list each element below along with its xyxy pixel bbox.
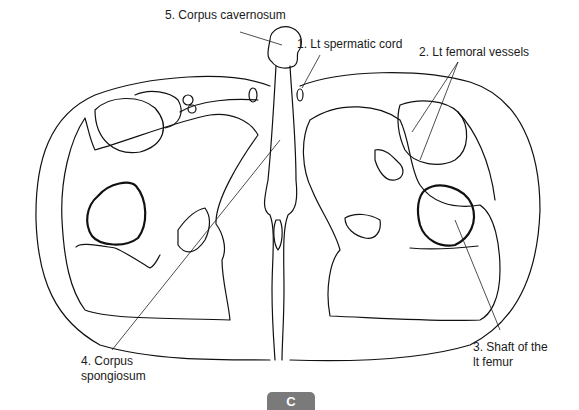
- left-thigh-outline: [36, 76, 270, 360]
- label-corpus-cavernosum: 5. Corpus cavernosum: [165, 8, 286, 23]
- right-small-bone-fragment: [345, 214, 380, 238]
- label-lt-femoral-vessels: 2. Lt femoral vessels: [419, 45, 529, 60]
- left-medial-line: [180, 99, 258, 112]
- panel-label-badge: C: [267, 392, 315, 410]
- leader-corpus-spongiosum: [112, 140, 280, 350]
- left-muscle-lobe: [95, 98, 163, 152]
- label-corpus-spongiosum-2: spongiosum: [81, 369, 146, 384]
- left-femur: [87, 183, 145, 245]
- lt-spermatic-cord-shape: [297, 89, 303, 101]
- leader-lt-spermatic-cord: [302, 55, 320, 88]
- anatomy-figure: 5. Corpus cavernosum 1. Lt spermatic cor…: [0, 0, 579, 410]
- midline-shaft: [265, 66, 297, 360]
- label-shaft-lt-femur-2: lt femur: [473, 355, 513, 370]
- right-thigh-inner: [303, 107, 500, 321]
- label-shaft-lt-femur-1: 3. Shaft of the: [473, 340, 548, 355]
- left-thigh-inner: [62, 114, 258, 320]
- left-small-bone-fragment: [178, 208, 210, 252]
- right-femur: [418, 186, 474, 246]
- right-muscle-lobe: [398, 101, 467, 164]
- right-femoral-vessel-group: [375, 150, 403, 181]
- left-vessel-1: [183, 95, 193, 105]
- right-muscle-lobe-2: [458, 112, 495, 200]
- leader-shaft-lt-femur: [455, 220, 500, 330]
- leader-corpus-cavernosum: [240, 32, 282, 45]
- corpus-spongiosum-slot: [274, 220, 282, 250]
- left-muscle-lobe-2: [135, 91, 181, 128]
- label-lt-spermatic-cord: 1. Lt spermatic cord: [297, 37, 402, 52]
- label-corpus-spongiosum-1: 4. Corpus: [81, 354, 133, 369]
- right-thigh-outline: [290, 73, 540, 361]
- left-femur-linea: [76, 244, 160, 268]
